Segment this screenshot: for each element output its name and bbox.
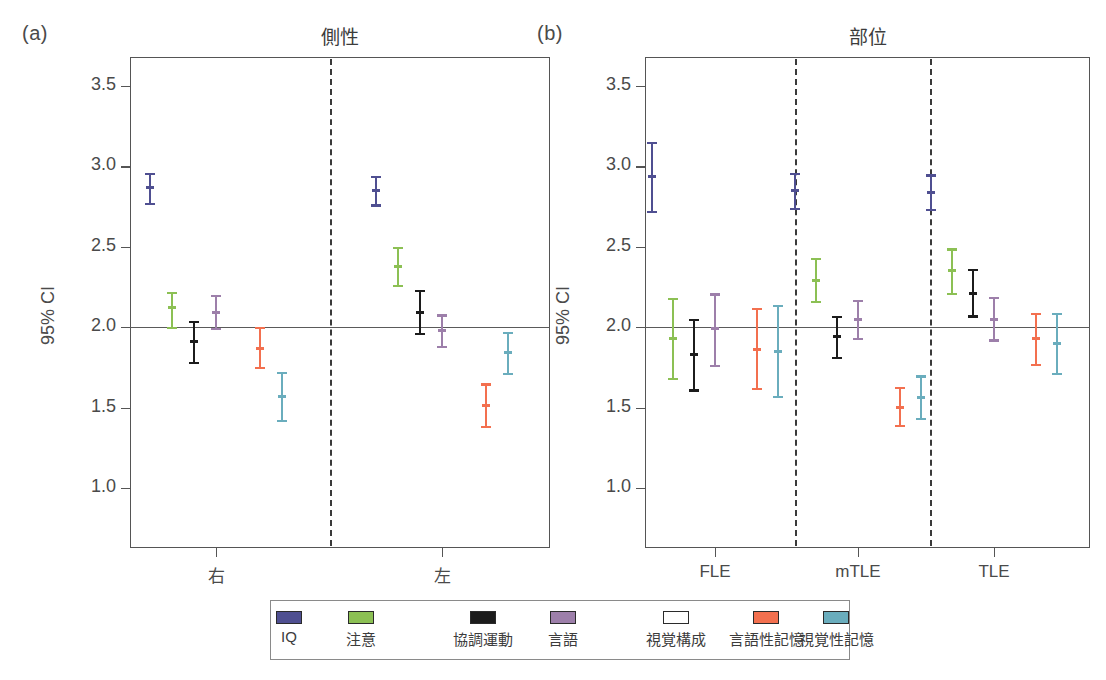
errorbar-視覚性記憶	[915, 375, 927, 420]
panel-title-2: 部位	[645, 22, 1090, 49]
ytick-label: 2.0	[64, 315, 116, 336]
errorbar-point	[833, 335, 841, 338]
errorbar-cap-upper	[211, 295, 221, 297]
errorbar-cap-upper	[255, 327, 265, 329]
legend-label-5: 言語性記憶	[729, 628, 804, 649]
errorbar-視覚性記憶	[276, 372, 288, 422]
errorbar-cap-upper	[689, 319, 699, 321]
errorbar-言語性記憶	[751, 308, 763, 390]
errorbar-cap-upper	[773, 305, 783, 307]
errorbar-cap-lower	[211, 328, 221, 330]
errorbar-cap-lower	[233, 299, 243, 301]
ytick-mark	[636, 247, 645, 248]
ytick-mark	[636, 488, 645, 489]
errorbar-cap-lower	[916, 418, 926, 420]
xtick-label-右: 右	[156, 562, 276, 587]
errorbar-cap-lower	[689, 389, 699, 391]
errorbar-言語	[436, 314, 448, 348]
y-axis-label: 95% CI	[553, 286, 574, 345]
errorbar-point	[146, 186, 154, 189]
ytick-mark	[636, 408, 645, 409]
figure-root: (a)側性3.53.02.52.01.51.095% CI右左(b)部位3.53…	[0, 0, 1106, 680]
errorbar-cap-upper	[233, 255, 243, 257]
errorbar-cap-lower	[790, 208, 800, 210]
errorbar-cap-lower	[947, 293, 957, 295]
errorbar-cap-upper	[459, 245, 469, 247]
errorbar-cap-upper	[503, 332, 513, 334]
y-axis-label: 95% CI	[38, 286, 59, 345]
errorbar-cap-lower	[647, 211, 657, 213]
ytick-mark	[636, 166, 645, 167]
errorbar-言語性記憶	[480, 383, 492, 428]
errorbar-cap-lower	[811, 301, 821, 303]
errorbar-point	[212, 311, 220, 314]
errorbar-IQ	[370, 176, 382, 207]
errorbar-cap-upper	[752, 308, 762, 310]
ytick-label: 3.5	[579, 74, 631, 95]
ytick-label: 1.0	[579, 476, 631, 497]
errorbar-cap-upper	[811, 258, 821, 260]
ytick-mark	[121, 488, 130, 489]
errorbar-言語	[852, 300, 864, 340]
errorbar-point	[812, 279, 820, 282]
errorbar-視覚構成	[873, 258, 885, 301]
errorbar-point	[278, 395, 286, 398]
errorbar-cap-upper	[393, 247, 403, 249]
ytick-label: 1.5	[64, 396, 116, 417]
errorbar-cap-upper	[895, 387, 905, 389]
errorbar-point	[917, 396, 925, 399]
legend-label-4: 視覚構成	[646, 628, 706, 649]
legend-swatch-2	[470, 611, 496, 624]
errorbar-cap-upper	[277, 372, 287, 374]
errorbar-注意	[166, 292, 178, 329]
xtick-label-TLE: TLE	[934, 562, 1054, 582]
legend-swatch-5	[753, 611, 779, 624]
ytick-mark	[121, 166, 130, 167]
errorbar-point	[732, 285, 740, 288]
errorbar-point	[190, 340, 198, 343]
group-divider	[795, 59, 797, 546]
errorbar-言語性記憶	[1030, 313, 1042, 366]
xtick-mark	[442, 548, 443, 557]
errorbar-cap-upper	[1031, 313, 1041, 315]
errorbar-協調運動	[188, 321, 200, 364]
errorbar-視覚構成	[730, 247, 742, 329]
ytick-label: 2.5	[579, 235, 631, 256]
errorbar-cap-lower	[459, 286, 469, 288]
errorbar-point	[234, 277, 242, 280]
errorbar-cap-upper	[989, 297, 999, 299]
errorbar-stem	[149, 173, 151, 205]
errorbar-cap-upper	[874, 258, 884, 260]
errorbar-cap-upper	[415, 290, 425, 292]
errorbar-cap-lower	[415, 333, 425, 335]
legend-label-3: 言語	[548, 628, 578, 649]
errorbar-言語性記憶	[894, 387, 906, 427]
errorbar-cap-lower	[145, 203, 155, 205]
errorbar-注意	[667, 298, 679, 380]
errorbar-cap-lower	[1031, 364, 1041, 366]
errorbar-point	[927, 191, 935, 194]
errorbar-cap-upper	[710, 293, 720, 295]
errorbar-cap-lower	[853, 338, 863, 340]
errorbar-point	[875, 279, 883, 282]
ytick-label: 2.0	[579, 315, 631, 336]
ytick-mark	[636, 86, 645, 87]
errorbar-stem	[651, 142, 653, 213]
errorbar-cap-lower	[167, 327, 177, 329]
errorbar-point	[753, 348, 761, 351]
errorbar-cap-upper	[968, 269, 978, 271]
xtick-label-mTLE: mTLE	[798, 562, 918, 582]
group-divider	[330, 59, 332, 546]
errorbar-cap-upper	[167, 292, 177, 294]
errorbar-point	[460, 265, 468, 268]
errorbar-point	[394, 265, 402, 268]
errorbar-cap-lower	[968, 315, 978, 317]
errorbar-cap-upper	[145, 173, 155, 175]
errorbar-point	[372, 189, 380, 192]
errorbar-cap-upper	[926, 174, 936, 176]
xtick-label-FLE: FLE	[655, 562, 775, 582]
errorbar-協調運動	[967, 269, 979, 317]
xtick-label-左: 左	[382, 562, 502, 587]
legend-swatch-0	[276, 611, 302, 624]
errorbar-cap-lower	[503, 373, 513, 375]
